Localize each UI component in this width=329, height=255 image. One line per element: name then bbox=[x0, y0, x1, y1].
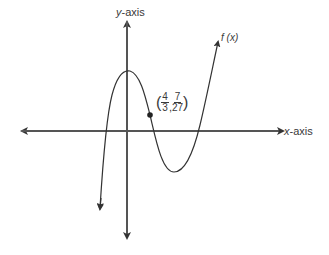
function-arg: (x) bbox=[224, 32, 238, 43]
x-coordinate-fraction: 43 bbox=[161, 92, 169, 113]
function-curve bbox=[100, 42, 218, 208]
function-label: f (x) bbox=[221, 32, 238, 43]
inflection-point-dot bbox=[147, 112, 153, 118]
y-axis-text: -axis bbox=[122, 6, 145, 18]
close-paren: ) bbox=[183, 94, 188, 111]
y-coordinate-fraction: 727 bbox=[172, 92, 183, 113]
x-denominator: 3 bbox=[162, 103, 168, 113]
x-axis-text: -axis bbox=[290, 125, 313, 137]
y-denominator: 27 bbox=[172, 103, 183, 113]
y-axis-label: y-axis bbox=[116, 6, 145, 18]
graph-canvas bbox=[0, 0, 329, 255]
x-axis-label: x-axis bbox=[284, 125, 313, 137]
inflection-point-label: (43,727) bbox=[156, 92, 188, 113]
